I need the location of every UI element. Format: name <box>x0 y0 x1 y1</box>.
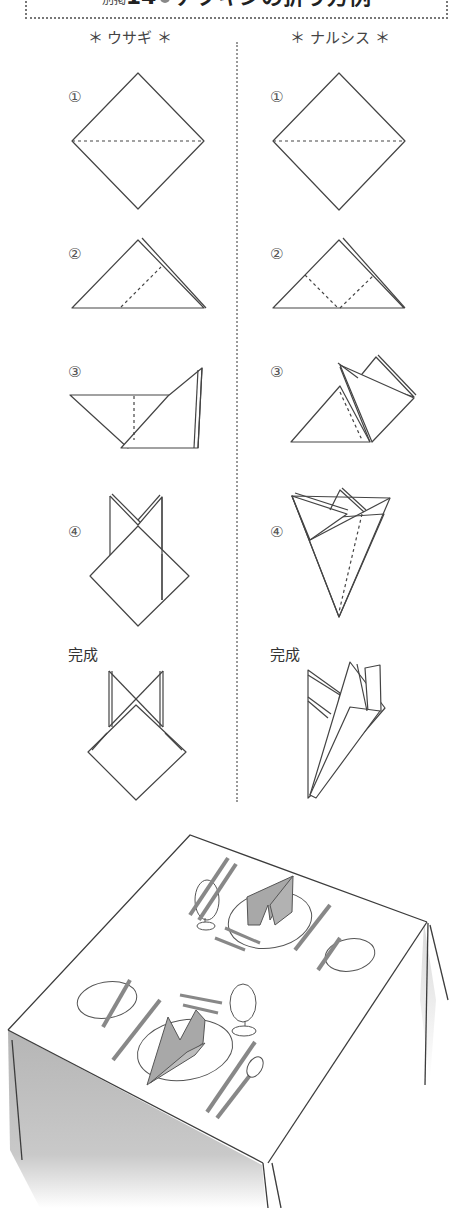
usagi-final-diagram <box>88 671 186 800</box>
table-illustration <box>8 835 448 1208</box>
narcissus-step2-diagram <box>273 238 405 308</box>
usagi-step1-diagram <box>72 73 204 209</box>
folding-diagrams <box>0 0 451 1208</box>
usagi-step3-diagram <box>70 368 202 448</box>
usagi-step4-diagram <box>90 494 189 626</box>
usagi-step2-diagram <box>72 238 206 308</box>
narcissus-step3-diagram <box>291 355 416 442</box>
narcissus-step4-diagram <box>292 488 390 617</box>
narcissus-step1-diagram <box>273 73 405 210</box>
narcissus-final-diagram <box>308 662 385 798</box>
